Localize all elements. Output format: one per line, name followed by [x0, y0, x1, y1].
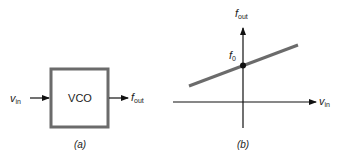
caption-b: (b) [237, 139, 249, 150]
f0-label: f0 [229, 49, 236, 62]
caption-a: (a) [74, 139, 86, 150]
vin-axis-label: vin [319, 95, 330, 108]
panel-a: VCO vin fout (a) [10, 69, 144, 150]
fout-label: fout [131, 91, 144, 104]
fout-axis-label: fout [235, 7, 248, 20]
f0-point [240, 63, 246, 69]
panel-b: fout f0 vin (b) [173, 7, 330, 150]
vco-diagram: VCO vin fout (a) fout f0 vin (b) [0, 0, 341, 161]
vin-label: vin [10, 92, 21, 105]
vco-label: VCO [68, 92, 92, 104]
